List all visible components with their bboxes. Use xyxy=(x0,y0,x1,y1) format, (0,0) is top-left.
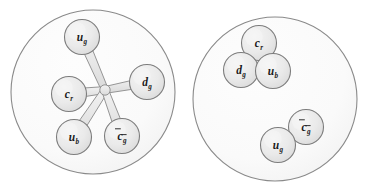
right-node-ub[interactable]: ub xyxy=(256,54,291,89)
right-node-ug[interactable]: ug xyxy=(261,128,296,163)
left-node-ug[interactable]: ug xyxy=(65,20,100,55)
left-node-cr[interactable]: cr xyxy=(52,77,87,112)
right-node-dg[interactable]: dg xyxy=(224,53,259,88)
left-node-ub[interactable]: ub xyxy=(57,120,92,155)
diagram-layer: ugdgcrubcgcrdgubcgug xyxy=(11,10,357,181)
left-panel-string-junction xyxy=(100,85,110,95)
right-panel: crdgubcgug xyxy=(193,17,357,181)
left-node-dg[interactable]: dg xyxy=(130,65,165,100)
figure-root: ugdgcrubcgcrdgubcgug xyxy=(0,0,372,189)
left-panel: ugdgcrubcg xyxy=(11,10,175,174)
left-node-cbar[interactable]: cg xyxy=(105,119,140,154)
quark-diagram: ugdgcrubcgcrdgubcgug xyxy=(0,0,372,189)
